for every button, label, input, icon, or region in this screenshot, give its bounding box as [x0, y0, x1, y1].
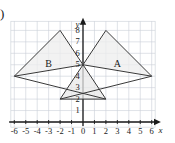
x-tick-label-3: -3 — [43, 126, 55, 136]
x-tick-label-8: 2 — [100, 126, 112, 136]
x-tick-label-10: 4 — [123, 126, 135, 136]
x-tick-label-1: -5 — [20, 126, 32, 136]
x-tick-label-5: -1 — [66, 126, 78, 136]
y-tick-label-5: 6 — [72, 48, 84, 58]
shape-label-a: A — [111, 58, 123, 69]
y-tick-label-3: 4 — [72, 71, 84, 81]
y-axis-label: y — [76, 19, 80, 29]
x-tick-label-11: 5 — [134, 126, 146, 136]
x-tick-label-6: 0 — [77, 126, 89, 136]
y-tick-label-4: 5 — [72, 59, 84, 69]
y-tick-label-0: 1 — [72, 105, 84, 115]
x-tick-label-7: 1 — [88, 126, 100, 136]
y-tick-label-2: 3 — [72, 82, 84, 92]
y-tick-label-6: 7 — [72, 36, 84, 46]
x-tick-label-9: 3 — [111, 126, 123, 136]
x-axis-label: x — [159, 125, 163, 135]
y-tick-label-1: 2 — [72, 94, 84, 104]
x-tick-label-2: -4 — [31, 126, 43, 136]
coordinate-plot — [0, 0, 175, 143]
x-tick-label-12: 6 — [146, 126, 158, 136]
shape-label-b: B — [43, 58, 55, 69]
coordinate-grid-figure: ) -6-5-4-3-2-1012345612345678xyAB — [0, 0, 175, 143]
x-tick-label-4: -2 — [54, 126, 66, 136]
x-tick-label-0: -6 — [8, 126, 20, 136]
